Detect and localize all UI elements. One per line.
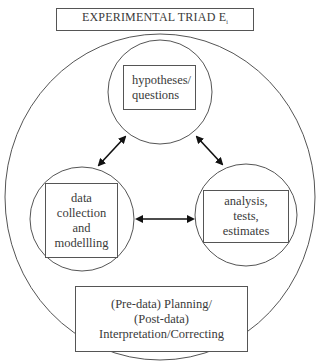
hypotheses-line: questions bbox=[132, 88, 179, 103]
data-line: data bbox=[71, 191, 92, 206]
data-line: modellling bbox=[54, 236, 108, 251]
analysis-line: estimates bbox=[223, 224, 270, 239]
diagram-title: EXPERIMENTAL TRIAD Ei bbox=[56, 8, 254, 31]
planning-line: (Pre-data) Planning/ bbox=[111, 297, 212, 312]
planning-box: (Pre-data) Planning/ (Post-data) Interpr… bbox=[75, 286, 248, 352]
title-subscript: i bbox=[226, 19, 228, 25]
data-line: and bbox=[72, 221, 90, 236]
analysis-box: analysis, tests, estimates bbox=[203, 190, 289, 243]
hypotheses-box: hypotheses/ questions bbox=[123, 65, 196, 110]
arrow-hyp-analysis bbox=[197, 137, 222, 164]
analysis-line: analysis, bbox=[224, 194, 267, 209]
data-line: collection bbox=[57, 206, 106, 221]
planning-line: Interpretation/Correcting bbox=[99, 327, 224, 342]
data-box: data collection and modellling bbox=[45, 183, 118, 258]
planning-line: (Post-data) bbox=[134, 312, 189, 327]
analysis-line: tests, bbox=[233, 209, 258, 224]
arrow-hyp-data bbox=[99, 137, 125, 165]
title-text: EXPERIMENTAL TRIAD E bbox=[82, 10, 226, 24]
hypotheses-line: hypotheses/ bbox=[132, 73, 191, 88]
